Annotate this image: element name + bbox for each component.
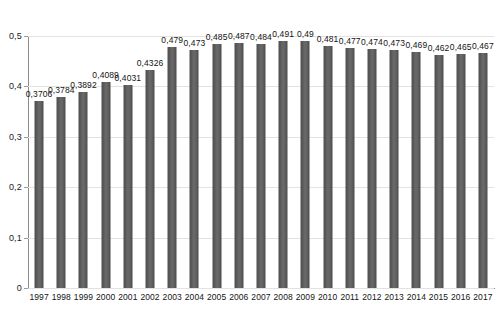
x-axis-tick-label: 1997 [29, 292, 48, 302]
bar-group[interactable]: 0,491 [272, 36, 294, 288]
bar-group[interactable]: 0,484 [250, 36, 272, 288]
bar[interactable] [456, 54, 465, 288]
x-axis-tick-label: 2002 [140, 292, 159, 302]
x-axis-labels: 1997199819992000200120022003200420052006… [28, 292, 494, 312]
x-axis-tick-label: 2006 [229, 292, 248, 302]
x-axis-tick-label: 1999 [74, 292, 93, 302]
bar-group[interactable]: 0,477 [339, 36, 361, 288]
bar-group[interactable]: 0,469 [405, 36, 427, 288]
x-axis-tick-label: 2014 [407, 292, 426, 302]
bar[interactable] [367, 49, 376, 288]
bar-value-label: 0,484 [250, 32, 272, 42]
bar[interactable] [79, 92, 88, 288]
bar-value-label: 0,474 [361, 37, 383, 47]
bar[interactable] [301, 41, 310, 288]
bar-value-label: 0,4326 [137, 58, 164, 68]
bar-value-label: 0,3892 [70, 80, 97, 90]
gridline [28, 288, 494, 289]
y-axis-tick-label: 0 [17, 283, 22, 293]
bars-layer: 0,37060,37840,38920,40890,40310,43260,47… [28, 36, 494, 288]
bar-value-label: 0,4031 [115, 73, 142, 83]
bar-group[interactable]: 0,473 [183, 36, 205, 288]
bar[interactable] [168, 47, 177, 288]
bar-group[interactable]: 0,479 [161, 36, 183, 288]
x-axis-tick-label: 2009 [296, 292, 315, 302]
bar-group[interactable]: 0,467 [472, 36, 494, 288]
y-axis-tick-label: 0,5 [9, 31, 22, 41]
bar[interactable] [101, 82, 110, 288]
bar-group[interactable]: 0,49 [294, 36, 316, 288]
bar-value-label: 0,465 [450, 42, 472, 52]
bar[interactable] [190, 50, 199, 288]
bar-value-label: 0,467 [472, 41, 494, 51]
x-axis-tick-label: 2005 [207, 292, 226, 302]
x-axis-tick-label: 2000 [96, 292, 115, 302]
x-axis-tick-label: 2010 [318, 292, 337, 302]
bar-chart: 00,10,20,30,40,5 0,37060,37840,38920,408… [0, 0, 503, 322]
bar-value-label: 0,477 [339, 36, 361, 46]
x-axis-tick-label: 1998 [52, 292, 71, 302]
x-axis-tick-label: 2013 [384, 292, 403, 302]
bar-group[interactable]: 0,465 [450, 36, 472, 288]
bar[interactable] [345, 48, 354, 288]
x-axis-tick-label: 2003 [163, 292, 182, 302]
bar[interactable] [390, 50, 399, 288]
bar-value-label: 0,479 [161, 35, 183, 45]
y-axis-tick-label: 0,1 [9, 233, 22, 243]
x-axis-tick-label: 2008 [274, 292, 293, 302]
bar-value-label: 0,49 [297, 29, 314, 39]
y-axis-tick-label: 0,2 [9, 182, 22, 192]
bar-group[interactable]: 0,485 [206, 36, 228, 288]
bar-value-label: 0,473 [383, 38, 405, 48]
bar[interactable] [35, 101, 44, 288]
x-axis-tick-label: 2004 [185, 292, 204, 302]
bar-value-label: 0,473 [184, 38, 206, 48]
bar-group[interactable]: 0,487 [228, 36, 250, 288]
bar[interactable] [212, 44, 221, 288]
x-axis-tick-label: 2007 [251, 292, 270, 302]
bar[interactable] [234, 43, 243, 288]
bar-value-label: 0,491 [272, 29, 294, 39]
bar-value-label: 0,481 [317, 34, 339, 44]
bar-group[interactable]: 0,462 [427, 36, 449, 288]
x-axis-tick-label: 2001 [118, 292, 137, 302]
bar-group[interactable]: 0,3784 [50, 36, 72, 288]
bar[interactable] [146, 70, 155, 288]
x-axis-tick-label: 2016 [451, 292, 470, 302]
bar-group[interactable]: 0,4326 [139, 36, 161, 288]
bar-group[interactable]: 0,4031 [117, 36, 139, 288]
bar[interactable] [323, 46, 332, 288]
bar[interactable] [434, 55, 443, 288]
bar-group[interactable]: 0,4089 [95, 36, 117, 288]
x-axis-tick-label: 2015 [429, 292, 448, 302]
bar[interactable] [279, 41, 288, 288]
x-axis-tick-label: 2017 [473, 292, 492, 302]
bar[interactable] [123, 85, 132, 288]
bar[interactable] [412, 52, 421, 288]
x-axis-tick-label: 2012 [362, 292, 381, 302]
y-axis-tick [24, 288, 28, 289]
bar[interactable] [256, 44, 265, 288]
y-axis-tick-label: 0,4 [9, 81, 22, 91]
y-axis-tick-label: 0,3 [9, 132, 22, 142]
bar-value-label: 0,487 [228, 31, 250, 41]
bar-group[interactable]: 0,3892 [72, 36, 94, 288]
bar-group[interactable]: 0,473 [383, 36, 405, 288]
plot-area: 00,10,20,30,40,5 0,37060,37840,38920,408… [28, 36, 494, 288]
bar[interactable] [57, 97, 66, 288]
bar-group[interactable]: 0,474 [361, 36, 383, 288]
bar[interactable] [478, 53, 487, 288]
bar-group[interactable]: 0,3706 [28, 36, 50, 288]
bar-group[interactable]: 0,481 [316, 36, 338, 288]
x-axis-tick-label: 2011 [340, 292, 359, 302]
bar-value-label: 0,485 [206, 32, 228, 42]
bar-value-label: 0,462 [428, 43, 450, 53]
bar-value-label: 0,469 [405, 40, 427, 50]
